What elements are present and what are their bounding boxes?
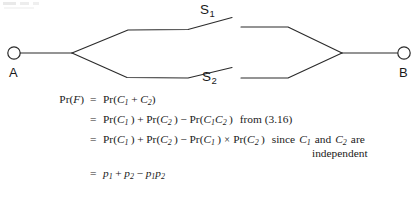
symbol-c: C [299, 133, 307, 145]
equals-sign-2: = [90, 114, 103, 125]
symbol-c: C [335, 133, 343, 145]
independent-continuation: independent [12, 148, 418, 159]
subscript-1: 1 [125, 98, 129, 107]
independent-word: independent [312, 147, 368, 159]
subscript-2: 2 [168, 138, 172, 147]
node-b-circle [398, 47, 410, 59]
subscript-2: 2 [148, 98, 152, 107]
subscript-1: 1 [151, 172, 155, 181]
pr-operator: Pr [103, 93, 113, 105]
pr-operator: Pr [59, 93, 69, 105]
subscript-2: 2 [223, 118, 227, 127]
branch-s2-subscript: 2 [211, 75, 216, 86]
subscript-2: 2 [255, 138, 259, 147]
equals-sign-3: = [90, 134, 103, 145]
subscript-1: 1 [307, 138, 311, 147]
minus-sign: − [134, 167, 146, 179]
pr-operator: Pr [190, 113, 200, 125]
since-keyword: since [272, 133, 295, 145]
equals-sign-1: = [90, 94, 103, 105]
pr-operator: Pr [146, 113, 156, 125]
symbol-c: C [117, 93, 125, 105]
subscript-2: 2 [161, 172, 165, 181]
equation-line-4-rhs: p1+p2−p1p2 [103, 168, 165, 179]
equals-sign-4: = [90, 168, 103, 179]
subscript-2: 2 [130, 172, 134, 181]
symbol-c: C [160, 133, 168, 145]
plus-sign: + [135, 133, 147, 145]
right-lower-path [241, 53, 342, 78]
subscript-1: 1 [211, 138, 215, 147]
subscript-1: 1 [125, 118, 129, 127]
symbol-c: C [117, 113, 125, 125]
equation-line-1: Pr(F) = Pr(C1+C2) [12, 94, 418, 105]
are-keyword: are [351, 133, 365, 145]
subscript-1: 1 [125, 138, 129, 147]
subscript-2: 2 [168, 118, 172, 127]
minus-sign: − [178, 133, 190, 145]
times-sign: × [221, 134, 233, 145]
minus-sign: − [178, 113, 190, 125]
symbol-c: C [117, 133, 125, 145]
equation-reference-note: from (3.16) [240, 113, 293, 125]
node-a-circle [8, 47, 20, 59]
pr-operator: Pr [146, 133, 156, 145]
symbol-c: C [203, 133, 211, 145]
right-upper-path [241, 27, 342, 53]
subscript-2: 2 [343, 138, 347, 147]
symbol-p: p [103, 167, 109, 179]
node-label-a: A [9, 66, 18, 79]
reliability-block-diagram: A B S1 S2 [0, 0, 418, 95]
branch-label-s1: S1 [200, 3, 214, 17]
symbol-c: C [203, 113, 211, 125]
figure-page: A B S1 S2 Pr(F) = Pr(C1+C2) = Pr(C1 )+Pr… [0, 0, 418, 199]
equation-line-4: = p1+p2−p1p2 [12, 168, 418, 179]
symbol-c: C [247, 133, 255, 145]
and-keyword: and [315, 133, 331, 145]
equation-line-3: = Pr(C1 )+Pr(C2 )−Pr(C1 )×Pr(C2 )sinceC1… [12, 134, 418, 145]
equation-line-2-rhs: Pr(C1 )+Pr(C2 )−Pr(C1C2 )from (3.16) [103, 114, 292, 125]
subscript-1: 1 [211, 118, 215, 127]
plus-sign: + [129, 93, 141, 105]
pr-operator: Pr [103, 113, 113, 125]
branch-label-s2: S2 [202, 70, 216, 84]
symbol-c: C [215, 113, 223, 125]
symbol-c: C [140, 93, 148, 105]
pr-operator: Pr [103, 133, 113, 145]
branch-s1-path [72, 18, 232, 54]
equation-line-1-rhs: Pr(C1+C2) [103, 94, 156, 105]
equation-line-2: = Pr(C1 )+Pr(C2 )−Pr(C1C2 )from (3.16) [12, 114, 418, 125]
equation-block: Pr(F) = Pr(C1+C2) = Pr(C1 )+Pr(C2 )−Pr(C… [0, 94, 418, 179]
equation-line-3-rhs: Pr(C1 )+Pr(C2 )−Pr(C1 )×Pr(C2 )sinceC1an… [103, 134, 365, 145]
branch-s1-symbol: S [200, 2, 209, 17]
plus-sign: + [113, 167, 125, 179]
pr-operator: Pr [190, 133, 200, 145]
subscript-1: 1 [109, 172, 113, 181]
branch-s1-subscript: 1 [209, 8, 214, 19]
symbol-c: C [160, 113, 168, 125]
equation-line-1-lhs: Pr(F) [12, 94, 90, 105]
pr-operator: Pr [233, 133, 243, 145]
plus-sign: + [135, 113, 147, 125]
branch-s2-symbol: S [202, 69, 211, 84]
node-label-b: B [399, 66, 408, 79]
